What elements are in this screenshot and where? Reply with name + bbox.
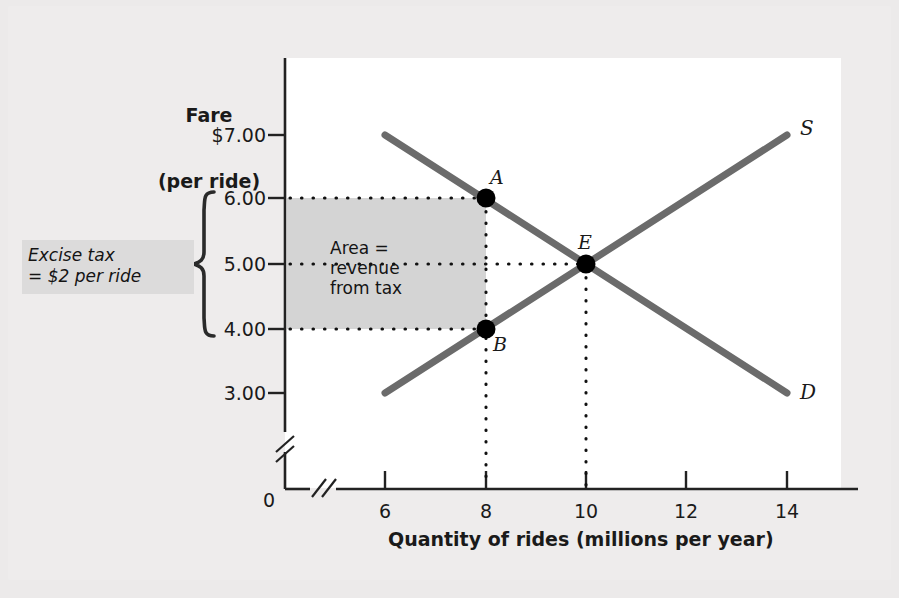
- point-e-label: E: [578, 231, 592, 253]
- area-label-line1: Area =: [330, 238, 480, 258]
- y-axis-title: Fare (per ride): [148, 60, 270, 236]
- point-a-marker: [477, 189, 496, 208]
- area-label-line2: revenue: [330, 258, 480, 278]
- y-tick-label-6: 6.00: [176, 187, 266, 209]
- point-a-label: A: [490, 166, 504, 188]
- area-label-line3: from tax: [330, 278, 480, 298]
- x-tick-label-6: 6: [365, 500, 405, 522]
- x-tick-label-10: 10: [566, 500, 606, 522]
- supply-curve-label: S: [800, 117, 814, 140]
- demand-curve-label: D: [800, 381, 816, 404]
- excise-tax-callout: Excise tax = $2 per ride: [22, 240, 194, 294]
- point-b-label: B: [493, 333, 507, 355]
- x-tick-label-8: 8: [466, 500, 506, 522]
- tax-revenue-area-label: Area = revenue from tax: [330, 238, 480, 298]
- x-axis-break-icon: [312, 479, 336, 497]
- point-e-marker: [577, 255, 596, 274]
- x-tick-label-12: 12: [666, 500, 706, 522]
- chart-overlay: [0, 0, 899, 598]
- x-axis-title: Quantity of rides (millions per year): [388, 528, 858, 550]
- y-tick-label-4: 4.00: [176, 318, 266, 340]
- origin-label: 0: [258, 489, 280, 511]
- excise-tax-line2: = $2 per ride: [28, 266, 188, 287]
- excise-tax-line1: Excise tax: [28, 245, 188, 266]
- x-tick-label-14: 14: [767, 500, 807, 522]
- y-tick-marks: [268, 135, 285, 393]
- y-tick-label-7: $7.00: [176, 124, 266, 146]
- figure-container: Fare (per ride) Quantity of rides (milli…: [0, 0, 899, 598]
- y-tick-label-3: 3.00: [176, 382, 266, 404]
- y-axis-title-line1: Fare: [148, 104, 270, 126]
